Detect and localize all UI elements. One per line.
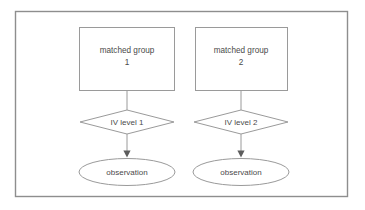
- matched-group-box-2-line2: 2: [239, 58, 244, 67]
- matched-group-box-1-line1: matched group: [100, 46, 155, 55]
- iv-level-diamond-1-label: IV level 1: [111, 118, 144, 127]
- matched-group-box-2-line1: matched group: [214, 46, 269, 55]
- diagram-canvas: matched group 1 IV level 1 observation m…: [0, 0, 365, 210]
- observation-ellipse-1-label: observation: [106, 168, 147, 177]
- diagram-svg: matched group 1 IV level 1 observation m…: [0, 0, 365, 210]
- observation-ellipse-2-label: observation: [220, 168, 261, 177]
- matched-group-box-1-line2: 1: [125, 58, 130, 67]
- iv-level-diamond-2-label: IV level 2: [225, 118, 258, 127]
- diagram-frame: [16, 12, 348, 197]
